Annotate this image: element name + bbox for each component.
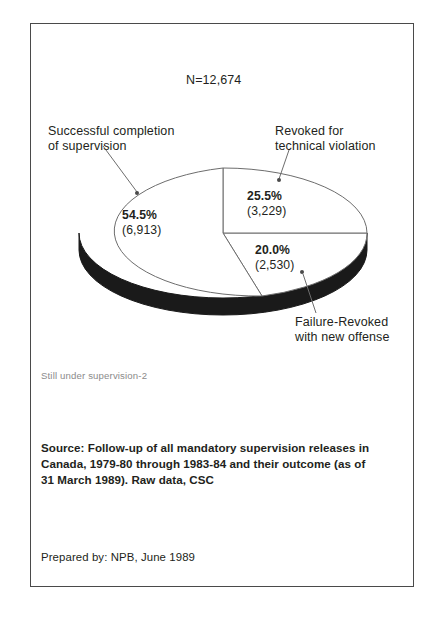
- callout-new-offense-line2: with new offense: [295, 330, 389, 345]
- source-note-line1: Source: Follow-up of all mandatory super…: [41, 440, 369, 456]
- slice-label-successful-count: (6,913): [122, 223, 161, 237]
- still-under-supervision-note: Still under supervision-2: [41, 370, 147, 381]
- callout-successful-line1: Successful completion: [48, 124, 174, 139]
- slice-label-successful-percent: 54.5%: [122, 208, 157, 222]
- slice-label-technical-count: (3,229): [247, 204, 286, 218]
- callout-technical-line2: technical violation: [275, 139, 376, 154]
- total-n-label: N=12,674: [186, 73, 241, 88]
- callout-technical-line1: Revoked for: [275, 124, 344, 139]
- source-note-line3: 31 March 1989). Raw data, CSC: [41, 472, 214, 488]
- slice-label-new-offense-percent: 20.0%: [255, 243, 290, 257]
- figure-frame-border: [30, 23, 414, 587]
- callout-new-offense-line1: Failure-Revoked: [295, 315, 388, 330]
- callout-successful-line2: of supervision: [48, 139, 127, 154]
- source-note-line2: Canada, 1979-80 through 1983-84 and thei…: [41, 456, 365, 472]
- slice-label-technical-percent: 25.5%: [247, 189, 282, 203]
- prepared-by-note: Prepared by: NPB, June 1989: [41, 551, 195, 564]
- figure-page: N=12,674 Successful completion of superv…: [0, 0, 444, 630]
- slice-label-new-offense-count: (2,530): [255, 258, 294, 272]
